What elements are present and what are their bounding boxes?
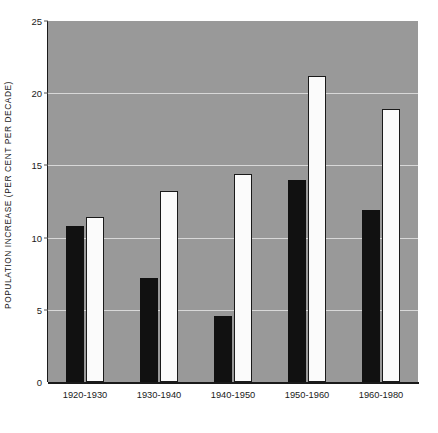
bar-black-1960-1980 <box>362 210 380 382</box>
gridline <box>48 93 418 94</box>
y-tick-label: 15 <box>2 160 42 171</box>
y-tick-label: 0 <box>2 377 42 388</box>
bar-white-1920-1930 <box>86 217 104 382</box>
y-axis-title: POPULATION INCREASE (PER CENT PER DECADE… <box>0 0 16 390</box>
y-tick-mark <box>44 165 48 166</box>
bar-white-1940-1950 <box>234 174 252 382</box>
x-tick-label: 1920-1930 <box>63 390 107 400</box>
bar-white-1960-1980 <box>382 109 400 382</box>
x-axis-line <box>48 382 419 384</box>
x-tick-label: 1960-1980 <box>359 390 403 400</box>
bar-black-1920-1930 <box>66 226 84 382</box>
bar-black-1950-1960 <box>288 180 306 382</box>
y-tick-mark <box>44 93 48 94</box>
x-tick-label: 1930-1940 <box>137 390 181 400</box>
y-tick-label: 5 <box>2 304 42 315</box>
bar-white-1950-1960 <box>308 76 326 382</box>
bar-black-1930-1940 <box>140 278 158 382</box>
y-tick-label: 20 <box>2 88 42 99</box>
x-tick-label: 1950-1960 <box>285 390 329 400</box>
y-tick-mark <box>44 21 48 22</box>
x-tick-label: 1940-1950 <box>211 390 255 400</box>
y-tick-label: 25 <box>2 16 42 27</box>
gridline <box>48 165 418 166</box>
y-axis-title-text: POPULATION INCREASE (PER CENT PER DECADE… <box>3 81 13 309</box>
bar-white-1930-1940 <box>160 191 178 382</box>
y-tick-mark <box>44 237 48 238</box>
bar-chart-figure: POPULATION INCREASE (PER CENT PER DECADE… <box>0 0 438 433</box>
bar-black-1940-1950 <box>214 316 232 382</box>
y-tick-label: 10 <box>2 232 42 243</box>
y-tick-mark <box>44 309 48 310</box>
